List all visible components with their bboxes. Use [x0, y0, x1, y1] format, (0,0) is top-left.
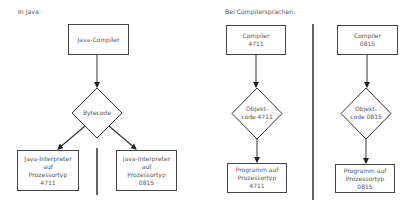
program-0815-line-1: Programm auf	[344, 167, 387, 175]
program-4711-line-2: Prozessortyp	[238, 174, 276, 182]
bytecode-label: Bytecode	[83, 109, 111, 117]
interpreter-4711-box: Java-Interpreter auf Prozessortyp 4711	[17, 150, 79, 191]
java-compiler-box: Java-Compiler	[68, 24, 129, 55]
interpreter-4711-line-4: 4711	[40, 179, 55, 187]
compiler-4711-line-1: Compiler	[242, 32, 269, 40]
bytecode-label-wrap: Bytecode	[72, 105, 122, 121]
objectcode-0815-line-2: code 0815	[350, 113, 382, 121]
objectcode-4711-line-1: Objekt-	[246, 105, 268, 113]
heading-java: In Java:	[18, 8, 41, 15]
interpreter-0815-line-4: 0815	[139, 179, 154, 187]
compiler-0815-line-1: Compiler	[354, 32, 381, 40]
java-compiler-label: Java-Compiler	[78, 36, 120, 44]
interpreter-4711-line-2: auf	[43, 163, 53, 171]
objectcode-0815-line-1: Objekt-	[355, 105, 377, 113]
compiler-0815-box: Compiler 0815	[337, 25, 398, 55]
objectcode-0815-label: Objekt- code 0815	[341, 104, 391, 122]
interpreter-0815-line-1: Java-Interpreter	[123, 155, 170, 163]
interpreter-0815-line-2: auf	[142, 163, 152, 171]
program-4711-line-3: 4711	[249, 182, 264, 190]
objectcode-4711-line-2: code 4711	[241, 113, 273, 121]
compiler-0815-line-2: 0815	[360, 40, 375, 48]
program-0815-line-2: Prozessortyp	[346, 175, 384, 183]
interpreter-4711-line-3: Prozessortyp	[29, 171, 67, 179]
compiler-4711-box: Compiler 4711	[226, 25, 286, 55]
interpreter-0815-box: Java-Interpreter auf Prozessortyp 0815	[116, 150, 177, 191]
interpreter-4711-line-1: Java-Interpreter	[24, 155, 71, 163]
interpreter-0815-line-3: Prozessortyp	[127, 171, 165, 179]
program-4711-box: Programm auf Prozessortyp 4711	[227, 163, 287, 193]
program-4711-line-1: Programm auf	[236, 166, 279, 174]
heading-compiler-languages: Bei Compilersprachen:	[225, 8, 295, 15]
objectcode-4711-label: Objekt- code 4711	[232, 104, 282, 122]
program-0815-line-3: 0815	[357, 183, 372, 191]
program-0815-box: Programm auf Prozessortyp 0815	[335, 164, 395, 193]
compiler-4711-line-2: 4711	[248, 40, 263, 48]
